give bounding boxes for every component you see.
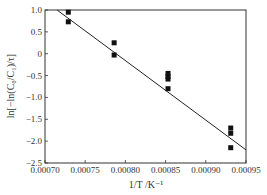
y-tick-label: −2.0: [26, 136, 43, 146]
y-tick-label: 1.0: [31, 5, 43, 15]
y-tick-label: −2.5: [26, 158, 43, 168]
chart: 0.000700.000750.000800.000850.000900.000…: [0, 0, 267, 195]
data-point: [228, 126, 233, 131]
data-point: [112, 53, 117, 58]
x-tick-label: 0.00095: [231, 165, 261, 175]
data-point: [166, 86, 171, 91]
x-tick-label: 0.00090: [191, 165, 221, 175]
data-points: [66, 10, 233, 151]
y-axis-label: ln[−ln(C₀/C₁)/τ]: [5, 54, 17, 118]
data-point: [228, 131, 233, 136]
fit-line: [57, 10, 246, 150]
y-tick-label: 0: [38, 49, 43, 59]
y-tick-label: −1.0: [26, 92, 43, 102]
data-point: [228, 145, 233, 150]
data-point: [166, 77, 171, 82]
data-point: [112, 40, 117, 45]
data-point: [66, 19, 71, 24]
x-axis: 0.000700.000750.000800.000850.000900.000…: [30, 160, 261, 175]
plot-frame: [45, 10, 246, 163]
y-tick-label: −0.5: [26, 71, 43, 81]
x-tick-label: 0.00080: [111, 165, 141, 175]
x-axis-label: 1/T /K⁻¹: [129, 179, 163, 190]
y-tick-label: 0.5: [31, 27, 43, 37]
x-tick-label: 0.00075: [71, 165, 101, 175]
data-point: [66, 10, 71, 15]
fit-line-group: [57, 10, 246, 150]
x-tick-label: 0.00085: [151, 165, 181, 175]
y-tick-label: −1.5: [26, 114, 43, 124]
